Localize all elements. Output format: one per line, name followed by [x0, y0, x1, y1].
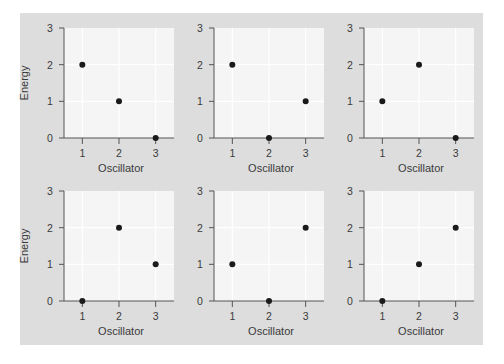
data-point	[453, 225, 459, 231]
data-point	[303, 225, 309, 231]
y-tick-label: 2	[47, 222, 53, 234]
x-axis-label: Oscillator	[398, 325, 444, 337]
y-tick-label: 1	[47, 95, 53, 107]
y-tick-label: 0	[197, 132, 203, 144]
y-axis-label: Energy	[18, 228, 30, 263]
panel-bottom-middle: 0123123Oscillator	[197, 185, 324, 337]
y-tick-label: 1	[47, 258, 53, 270]
x-tick-label: 2	[416, 310, 422, 322]
y-tick-label: 2	[47, 59, 53, 71]
y-tick-label: 0	[47, 295, 53, 307]
x-tick-label: 3	[303, 310, 309, 322]
y-tick-label: 3	[197, 22, 203, 34]
y-tick-label: 3	[47, 22, 53, 34]
data-point	[266, 135, 272, 141]
small-multiples-scatter-chart: 0123123OscillatorEnergy0123123Oscillator…	[0, 0, 504, 364]
x-tick-label: 1	[379, 147, 385, 159]
x-tick-label: 1	[229, 310, 235, 322]
y-tick-label: 2	[347, 59, 353, 71]
data-point	[229, 62, 235, 68]
x-tick-label: 2	[266, 310, 272, 322]
data-point	[79, 62, 85, 68]
y-tick-label: 1	[347, 258, 353, 270]
panel-bottom-left: 0123123OscillatorEnergy	[18, 185, 174, 337]
x-tick-label: 3	[303, 147, 309, 159]
data-point	[153, 135, 159, 141]
data-point	[79, 298, 85, 304]
x-axis-label: Oscillator	[98, 162, 144, 174]
y-tick-label: 1	[197, 258, 203, 270]
panel-top-left: 0123123OscillatorEnergy	[18, 22, 174, 174]
data-point	[153, 261, 159, 267]
y-tick-label: 0	[347, 295, 353, 307]
x-tick-label: 1	[229, 147, 235, 159]
x-axis-label: Oscillator	[398, 162, 444, 174]
x-tick-label: 2	[266, 147, 272, 159]
data-point	[379, 298, 385, 304]
y-tick-label: 3	[347, 22, 353, 34]
x-tick-label: 2	[116, 147, 122, 159]
y-tick-label: 0	[347, 132, 353, 144]
data-point	[416, 62, 422, 68]
y-tick-label: 3	[197, 185, 203, 197]
x-axis-label: Oscillator	[248, 325, 294, 337]
data-point	[416, 261, 422, 267]
x-axis-label: Oscillator	[248, 162, 294, 174]
panel-top-middle: 0123123Oscillator	[197, 22, 324, 174]
y-tick-label: 0	[197, 295, 203, 307]
y-tick-label: 0	[47, 132, 53, 144]
data-point	[453, 135, 459, 141]
data-point	[116, 225, 122, 231]
data-point	[379, 98, 385, 104]
x-tick-label: 3	[453, 147, 459, 159]
x-tick-label: 2	[116, 310, 122, 322]
x-tick-label: 2	[416, 147, 422, 159]
panel-bottom-right: 0123123Oscillator	[347, 185, 474, 337]
y-tick-label: 2	[197, 59, 203, 71]
y-tick-label: 3	[347, 185, 353, 197]
x-axis-label: Oscillator	[98, 325, 144, 337]
x-tick-label: 1	[79, 310, 85, 322]
y-tick-label: 3	[47, 185, 53, 197]
panel-top-right: 0123123Oscillator	[347, 22, 474, 174]
x-tick-label: 3	[153, 310, 159, 322]
x-tick-label: 1	[79, 147, 85, 159]
x-tick-label: 3	[453, 310, 459, 322]
x-tick-label: 3	[153, 147, 159, 159]
y-axis-label: Energy	[18, 65, 30, 100]
data-point	[266, 298, 272, 304]
data-point	[229, 261, 235, 267]
data-point	[303, 98, 309, 104]
y-tick-label: 1	[197, 95, 203, 107]
x-tick-label: 1	[379, 310, 385, 322]
y-tick-label: 1	[347, 95, 353, 107]
y-tick-label: 2	[347, 222, 353, 234]
y-tick-label: 2	[197, 222, 203, 234]
data-point	[116, 98, 122, 104]
